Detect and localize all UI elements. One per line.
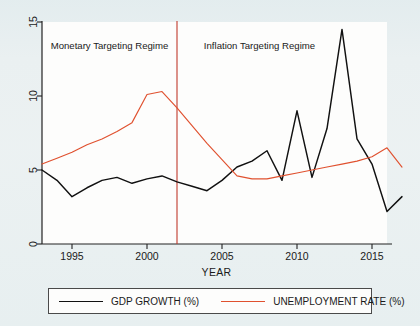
y-axis-tick-label: 10: [27, 90, 39, 102]
y-axis-tick-label: 15: [27, 16, 39, 28]
legend-entry-gdp-growth: GDP GROWTH (%): [59, 296, 199, 307]
chart-figure: 05101519952000200520102015YEARMonetary T…: [0, 0, 420, 326]
y-axis-tick-label: 0: [27, 241, 39, 247]
series-line-unemployment-rate: [42, 92, 402, 179]
x-axis-title: YEAR: [202, 266, 232, 278]
legend-swatch-unemployment-rate: [221, 301, 265, 302]
y-axis-tick-label: 5: [27, 167, 39, 173]
x-axis-tick-label: 2015: [360, 250, 384, 262]
line-chart: 05101519952000200520102015YEARMonetary T…: [0, 0, 420, 326]
inflation-targeting-regime-label: Inflation Targeting Regime: [204, 40, 315, 51]
legend-label-gdp-growth: GDP GROWTH (%): [111, 296, 199, 307]
x-axis-tick-label: 2005: [210, 250, 234, 262]
monetary-targeting-regime-label: Monetary Targeting Regime: [51, 40, 169, 51]
x-axis-tick-label: 2000: [135, 250, 159, 262]
series-line-gdp-growth: [42, 29, 402, 211]
x-axis-tick-label: 1995: [60, 250, 84, 262]
x-axis-tick-label: 2010: [285, 250, 309, 262]
legend-entry-unemployment-rate: UNEMPLOYMENT RATE (%): [221, 296, 404, 307]
legend-swatch-gdp-growth: [59, 301, 103, 302]
chart-legend: GDP GROWTH (%) UNEMPLOYMENT RATE (%): [48, 288, 372, 314]
legend-label-unemployment-rate: UNEMPLOYMENT RATE (%): [273, 296, 404, 307]
